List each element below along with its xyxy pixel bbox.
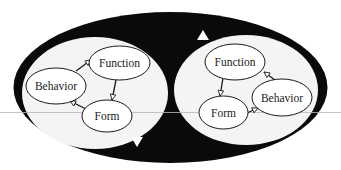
node-label-behavior: Behavior xyxy=(35,80,77,92)
node-label-form: Form xyxy=(95,110,120,122)
node-label-behavior: Behavior xyxy=(261,92,303,104)
node-function: Function xyxy=(89,46,150,80)
node-behavior: Behavior xyxy=(26,68,86,104)
fbf-cycle-diagram: Function Behavior Form Function Behavior… xyxy=(0,0,341,170)
node-function: Function xyxy=(205,44,265,80)
node-form: Form xyxy=(199,96,248,129)
node-label-function: Function xyxy=(99,57,140,69)
node-label-function: Function xyxy=(215,56,256,68)
node-behavior: Behavior xyxy=(252,79,312,116)
node-form: Form xyxy=(82,100,132,132)
node-label-form: Form xyxy=(211,107,236,119)
